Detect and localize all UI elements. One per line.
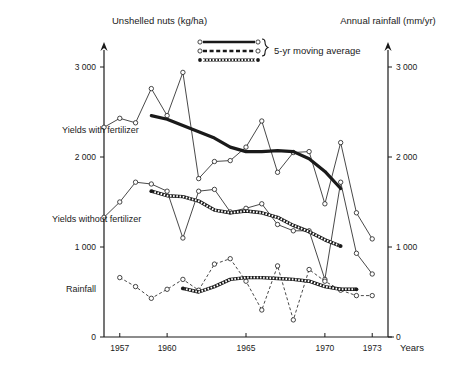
moving-average-chain bbox=[149, 189, 342, 248]
data-point bbox=[323, 279, 327, 283]
x-axis-tick-label: 1973 bbox=[363, 343, 382, 353]
right-axis-title: Annual rainfall (mm/yr) bbox=[340, 15, 436, 26]
y-axis-right-tick-label: 1 000 bbox=[396, 242, 418, 252]
data-point bbox=[275, 264, 279, 268]
left-axis-title: Unshelled nuts (kg/ha) bbox=[112, 15, 207, 26]
data-point bbox=[118, 200, 122, 204]
data-point bbox=[149, 182, 153, 186]
data-point bbox=[165, 287, 169, 291]
data-point bbox=[338, 140, 342, 144]
series-yields-with-fertilizer bbox=[102, 70, 375, 241]
data-point bbox=[260, 308, 264, 312]
moving-average-solid bbox=[151, 116, 340, 189]
data-point bbox=[370, 293, 374, 297]
data-point bbox=[181, 277, 185, 281]
data-point bbox=[291, 229, 295, 233]
data-point bbox=[149, 86, 153, 90]
x-axis-tick-label: 1970 bbox=[315, 343, 334, 353]
legend-label: 5-yr moving average bbox=[274, 45, 361, 56]
chart-figure: 001 0001 0002 0002 0003 0003 00019571960… bbox=[0, 0, 458, 378]
x-axis-tick-label: 1965 bbox=[237, 343, 256, 353]
x-axis-title: Years bbox=[400, 342, 424, 353]
data-point bbox=[260, 119, 264, 123]
data-point bbox=[181, 236, 185, 240]
data-point bbox=[149, 296, 153, 300]
data-point bbox=[354, 211, 358, 215]
data-point bbox=[354, 293, 358, 297]
series-label-with-fertilizer: Yields with fertilizer bbox=[62, 125, 139, 135]
data-point bbox=[260, 202, 264, 206]
data-point bbox=[228, 257, 232, 261]
data-point bbox=[228, 158, 232, 162]
series-label-without-fertilizer: Yields without fertilizer bbox=[52, 214, 141, 224]
data-point bbox=[212, 159, 216, 163]
y-axis-right-tick-label: 0 bbox=[396, 332, 401, 342]
data-point bbox=[244, 145, 248, 149]
y-axis-tick-label: 0 bbox=[91, 332, 96, 342]
data-point bbox=[196, 176, 200, 180]
data-point bbox=[370, 272, 374, 276]
legend-brace bbox=[262, 39, 268, 56]
moving-average-chain bbox=[181, 278, 358, 292]
series-label-rainfall: Rainfall bbox=[66, 284, 96, 294]
y-axis-right-tick-label: 3 000 bbox=[396, 62, 418, 72]
y-axis-tick-label: 1 000 bbox=[75, 242, 97, 252]
y-axis-tick-label: 2 000 bbox=[75, 152, 97, 162]
series-yields-without-fertilizer bbox=[102, 180, 375, 282]
data-point bbox=[212, 187, 216, 191]
data-point bbox=[307, 267, 311, 271]
x-axis-tick-label: 1957 bbox=[110, 343, 129, 353]
chart-svg: 001 0001 0002 0002 0003 0003 00019571960… bbox=[0, 0, 458, 378]
data-point bbox=[133, 284, 137, 288]
data-point bbox=[118, 275, 122, 279]
data-point bbox=[275, 222, 279, 226]
y-axis-tick-label: 3 000 bbox=[75, 62, 97, 72]
y-axis-right-tick-label: 2 000 bbox=[396, 152, 418, 162]
data-point bbox=[165, 113, 169, 117]
data-point bbox=[196, 189, 200, 193]
data-point bbox=[212, 262, 216, 266]
data-point bbox=[275, 170, 279, 174]
data-point bbox=[118, 116, 122, 120]
data-point bbox=[370, 237, 374, 241]
data-point bbox=[165, 189, 169, 193]
data-point bbox=[181, 70, 185, 74]
legend: 5-yr moving average bbox=[198, 39, 361, 62]
data-point bbox=[133, 180, 137, 184]
data-point bbox=[307, 149, 311, 153]
x-axis-tick-label: 1960 bbox=[158, 343, 177, 353]
data-point bbox=[244, 279, 248, 283]
data-point bbox=[291, 318, 295, 322]
data-point bbox=[338, 180, 342, 184]
data-point bbox=[354, 251, 358, 255]
data-point bbox=[323, 202, 327, 206]
